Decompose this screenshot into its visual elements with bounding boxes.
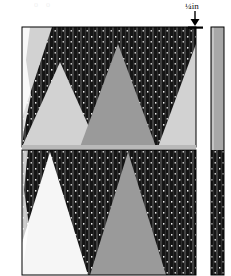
figure-root: o o ¼in [0,0,231,276]
sample-strip-lower [211,150,224,275]
sample-strip-highlight [212,27,214,150]
band-seam [22,145,196,149]
sample-strip [211,27,224,275]
down-arrow-icon [188,11,203,29]
upper-band [22,27,231,147]
pattern-illustration [0,0,231,276]
figure-graphics [0,0,231,276]
lower-band [12,150,196,275]
callout-baseline-tick [188,27,203,29]
